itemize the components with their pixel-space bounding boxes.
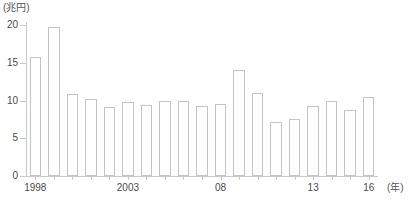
- x-tick-mark: [313, 176, 314, 180]
- x-tick-mark: [202, 176, 203, 180]
- x-tick-mark: [72, 176, 73, 180]
- bar: [159, 101, 170, 177]
- x-tick-mark: [128, 176, 129, 180]
- bar: [270, 122, 281, 176]
- bar: [178, 101, 189, 176]
- x-tick-mark: [276, 176, 277, 180]
- y-tick-mark: [20, 176, 27, 177]
- bar: [215, 104, 226, 176]
- x-tick-label: 2003: [117, 182, 139, 193]
- x-tick-mark: [109, 176, 110, 180]
- x-tick-mark: [350, 176, 351, 180]
- x-tick-mark: [239, 176, 240, 180]
- bar: [85, 99, 96, 176]
- x-tick-mark: [35, 176, 36, 180]
- y-tick-label: 10: [0, 96, 18, 106]
- bar: [233, 70, 244, 176]
- bar: [48, 27, 59, 176]
- y-tick-label: 20: [0, 20, 18, 30]
- x-tick-mark: [91, 176, 92, 180]
- bar: [196, 106, 207, 176]
- x-tick-mark: [221, 176, 222, 180]
- x-tick-mark: [369, 176, 370, 180]
- bar: [363, 97, 374, 176]
- x-tick-label: 16: [363, 182, 374, 193]
- x-tick-mark: [332, 176, 333, 180]
- y-axis-unit-label: (兆円): [3, 2, 30, 14]
- bar-chart: (兆円) 05101520 19982003081316 (年): [0, 0, 419, 205]
- x-tick-mark: [295, 176, 296, 180]
- x-tick-mark: [183, 176, 184, 180]
- bar-series: [26, 25, 378, 176]
- x-axis-unit-label: (年): [387, 182, 404, 193]
- y-tick-label: 5: [0, 133, 18, 143]
- x-tick-mark: [54, 176, 55, 180]
- x-tick-label: 1998: [24, 182, 46, 193]
- x-tick-mark: [165, 176, 166, 180]
- bar: [122, 102, 133, 176]
- bar: [289, 119, 300, 176]
- bar: [326, 101, 337, 176]
- bar: [67, 94, 78, 176]
- x-tick-mark: [146, 176, 147, 180]
- x-tick-label: 13: [308, 182, 319, 193]
- bar: [104, 107, 115, 176]
- bar: [30, 57, 41, 176]
- x-tick-label: 08: [215, 182, 226, 193]
- y-tick-label: 15: [0, 58, 18, 68]
- y-tick-label: 0: [0, 171, 18, 181]
- x-tick-mark: [258, 176, 259, 180]
- bar: [307, 106, 318, 176]
- bar: [344, 110, 355, 176]
- bar: [141, 105, 152, 176]
- bar: [252, 93, 263, 176]
